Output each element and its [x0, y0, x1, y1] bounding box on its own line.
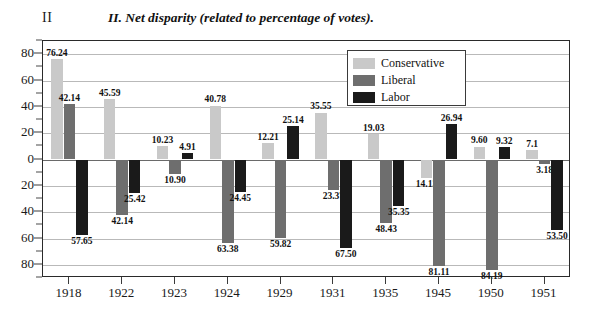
legend-item-liberal: Liberal [353, 72, 460, 88]
bar-value-liberal-1924: 63.38 [217, 244, 238, 254]
bar-value-labor-1931: 67.50 [335, 249, 356, 259]
x-tick-label-1929: 1929 [267, 285, 293, 301]
bar-labor-1923 [182, 153, 194, 159]
y-tick-label: 60 [21, 72, 34, 88]
bar-conservative-1935 [368, 134, 380, 159]
bar-conservative-1931 [315, 113, 327, 160]
bar-value-conservative-1951: 7.1 [526, 139, 538, 149]
bar-conservative-1922 [104, 99, 116, 159]
x-tick-label-1922: 1922 [108, 285, 134, 301]
y-tick-mark [34, 105, 42, 106]
bar-conservative-1945 [421, 160, 433, 179]
x-tick-label-1935: 1935 [372, 285, 398, 301]
bar-liberal-1923 [169, 160, 181, 174]
bar-conservative-1929 [262, 143, 274, 159]
legend-label-liberal: Liberal [381, 74, 416, 86]
y-tick-label: 80 [21, 256, 34, 272]
legend-swatch-liberal [353, 75, 375, 86]
bar-value-labor-1924: 24.45 [230, 193, 251, 203]
bar-labor-1935 [393, 160, 405, 207]
bar-liberal-1922 [116, 160, 128, 215]
bar-value-liberal-1945: 81.11 [429, 267, 450, 277]
legend-label-labor: Labor [381, 91, 410, 103]
y-tick-label: 40 [21, 98, 34, 114]
x-tick-label-1951: 1951 [531, 285, 557, 301]
x-tick-mark [491, 277, 492, 284]
bar-value-conservative-1922: 45.59 [99, 88, 120, 98]
bar-liberal-1918 [64, 104, 76, 159]
bar-value-liberal-1918: 42.14 [59, 93, 80, 103]
gridline [43, 81, 569, 82]
y-tick-mark [34, 53, 42, 54]
bar-labor-1924 [235, 160, 247, 192]
legend-swatch-labor [353, 92, 375, 103]
bar-labor-1950 [499, 147, 511, 159]
x-tick-mark [280, 277, 281, 284]
legend-swatch-conservative [353, 58, 375, 69]
x-tick-label-1923: 1923 [161, 285, 187, 301]
bar-conservative-1918 [51, 59, 63, 159]
x-axis: 1918192219231924192919311935194519501951 [42, 277, 570, 307]
gridline [43, 107, 569, 108]
x-tick-label-1950: 1950 [478, 285, 504, 301]
bar-value-liberal-1935: 48.43 [376, 224, 397, 234]
bar-labor-1945 [446, 124, 458, 159]
figure-marker: II [42, 10, 52, 26]
x-tick-mark [544, 277, 545, 284]
bar-value-conservative-1931: 35.55 [310, 101, 331, 111]
x-tick-label-1945: 1945 [425, 285, 451, 301]
x-tick-label-1924: 1924 [214, 285, 240, 301]
bar-labor-1922 [129, 160, 141, 193]
bar-labor-1918 [76, 160, 88, 236]
bar-value-conservative-1950: 9.60 [471, 135, 488, 145]
y-tick-mark [34, 184, 42, 185]
x-tick-mark [174, 277, 175, 284]
bar-conservative-1951 [526, 150, 538, 159]
y-tick-mark [34, 263, 42, 264]
bar-value-labor-1950: 9.32 [496, 136, 513, 146]
bar-value-conservative-1918: 76.24 [46, 48, 67, 58]
y-tick-mark [34, 132, 42, 133]
bar-labor-1929 [287, 126, 299, 159]
bar-value-conservative-1924: 40.78 [205, 94, 226, 104]
y-tick-label: 60 [21, 230, 34, 246]
bar-value-conservative-1923: 10.23 [152, 135, 173, 145]
chart-legend: Conservative Liberal Labor [347, 50, 466, 106]
legend-item-conservative: Conservative [353, 55, 460, 71]
gridline [43, 133, 569, 134]
x-tick-mark [121, 277, 122, 284]
bar-labor-1931 [340, 160, 352, 249]
x-tick-mark [227, 277, 228, 284]
x-tick-label-1918: 1918 [55, 285, 81, 301]
bar-value-labor-1929: 25.14 [282, 115, 303, 125]
plot-area: 76.2442.1457.6545.5942.1425.4210.2310.90… [43, 41, 569, 276]
bar-value-conservative-1929: 12.21 [257, 132, 278, 142]
bar-liberal-1951 [539, 160, 551, 164]
gridline [43, 54, 569, 55]
bar-value-labor-1922: 25.42 [124, 194, 145, 204]
y-tick-mark [34, 211, 42, 212]
y-tick-mark [34, 158, 42, 159]
bar-value-conservative-1935: 19.03 [363, 123, 384, 133]
chart-frame: 76.2442.1457.6545.5942.1425.4210.2310.90… [42, 40, 570, 277]
y-tick-label: 40 [21, 203, 34, 219]
bar-value-liberal-1929: 59.82 [270, 239, 291, 249]
bar-liberal-1945 [433, 160, 445, 267]
bar-liberal-1950 [486, 160, 498, 271]
figure-title: II. Net disparity (related to percentage… [108, 10, 374, 26]
y-tick-mark [34, 237, 42, 238]
x-tick-mark [438, 277, 439, 284]
bar-value-labor-1951: 53.50 [546, 231, 567, 241]
bar-value-liberal-1922: 42.14 [112, 216, 133, 226]
x-tick-mark [385, 277, 386, 284]
bar-value-labor-1918: 57.65 [71, 236, 92, 246]
y-tick-mark [34, 79, 42, 80]
bar-value-liberal-1923: 10.90 [164, 175, 185, 185]
bar-conservative-1950 [474, 147, 486, 160]
bar-liberal-1929 [275, 160, 287, 239]
bar-value-labor-1935: 35.35 [388, 207, 409, 217]
bar-value-labor-1945: 26.94 [441, 113, 462, 123]
y-tick-label: 80 [21, 45, 34, 61]
bar-labor-1951 [551, 160, 563, 230]
x-tick-mark [68, 277, 69, 284]
